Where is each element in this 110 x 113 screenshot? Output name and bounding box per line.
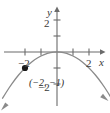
x-tick-label-neg2: −2: [18, 53, 30, 71]
x-tick-label-pos2-text: 2: [86, 57, 92, 69]
x-axis-label-text: x: [99, 56, 104, 68]
marked-point-label-text: (−2, −1): [29, 77, 64, 88]
marked-point-label: (−2, −1): [29, 72, 64, 90]
y-tick-label-pos2: 2: [44, 13, 50, 31]
y-axis-arrowhead-icon: [54, 7, 60, 13]
parabola-graph-figure: y x 2 −2 −2 2 (−2, −1): [0, 0, 110, 113]
y-tick-label-pos2-text: 2: [44, 17, 50, 29]
curve-left-arrowhead-icon: [1, 103, 9, 111]
x-tick-label-pos2: 2: [86, 53, 92, 71]
curve-right-arrowhead-icon: [100, 94, 108, 101]
coordinate-plane-svg: [0, 0, 110, 113]
x-axis-label: x: [99, 52, 104, 70]
x-tick-label-neg2-text: −2: [18, 57, 30, 69]
